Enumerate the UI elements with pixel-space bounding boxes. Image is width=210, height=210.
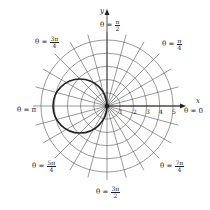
radial-tick-4: 4 <box>159 108 163 115</box>
grid-ray <box>107 35 126 106</box>
grid-ray <box>43 106 107 143</box>
angle-label-0: θ = 0 <box>184 108 203 115</box>
grid-ray <box>107 106 126 177</box>
grid-ray <box>55 54 107 106</box>
angle-label-3pi-over-4: θ = 3π4 <box>35 36 59 49</box>
grid-ray <box>43 69 107 106</box>
origin-point <box>105 104 109 108</box>
grid-ray <box>107 87 178 106</box>
grid-ray <box>70 106 107 170</box>
grid-ray <box>36 106 107 125</box>
angle-label-3pi-over-2: θ = 3π2 <box>96 186 120 199</box>
grid-ray <box>36 87 107 106</box>
angle-label-7pi-over-4: θ = 7π4 <box>160 160 184 173</box>
grid-ray <box>107 106 144 170</box>
radial-tick-5: 5 <box>172 108 176 115</box>
x-axis-label: x <box>196 97 200 105</box>
radial-tick-2: 2 <box>133 108 137 115</box>
grid-ray <box>107 106 178 125</box>
grid-ray <box>107 54 159 106</box>
grid-ray <box>70 42 107 106</box>
radial-tick-1: 1 <box>119 108 123 115</box>
angle-label-5pi-over-4: θ = 5π4 <box>32 160 56 173</box>
angle-label-pi: θ = π <box>17 107 36 114</box>
y-axis-arrowhead-icon <box>105 9 110 15</box>
radial-tick-3: 3 <box>146 108 150 115</box>
angle-label-pi-over-2: θ = π2 <box>100 19 120 32</box>
grid-ray <box>55 106 107 158</box>
y-axis-label: y <box>100 7 104 15</box>
grid-ray <box>107 69 171 106</box>
angle-label-pi-over-4: θ = π4 <box>162 38 182 51</box>
grid-ray <box>107 42 144 106</box>
